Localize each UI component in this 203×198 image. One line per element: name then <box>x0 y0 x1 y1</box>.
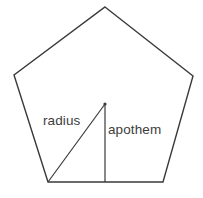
pentagon-outline <box>14 7 193 182</box>
apothem-label: apothem <box>108 123 161 137</box>
center-point-dot <box>103 102 106 105</box>
radius-label: radius <box>43 114 80 128</box>
diagram-canvas: radius apothem <box>0 0 203 198</box>
pentagon-diagram <box>0 0 203 198</box>
